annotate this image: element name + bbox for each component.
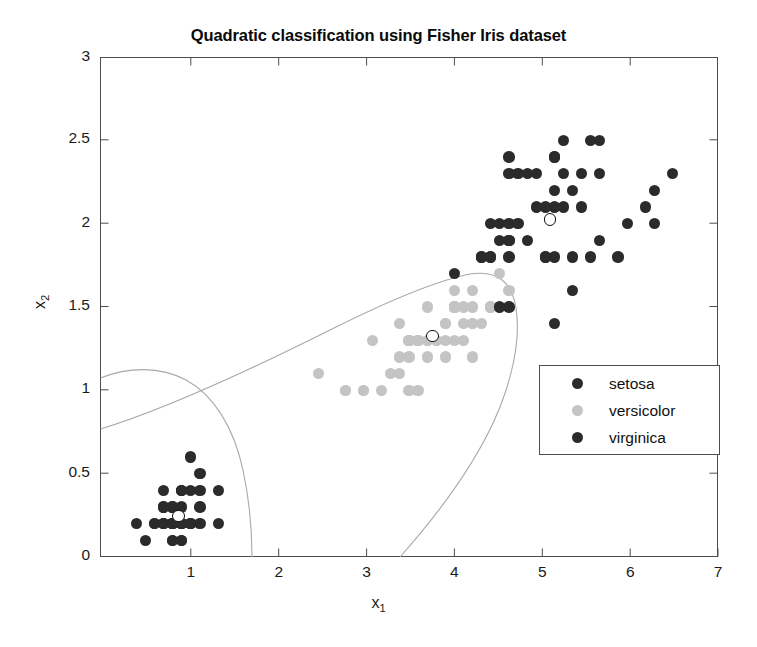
data-point xyxy=(640,201,651,212)
y-tick-label: 0.5 xyxy=(38,463,90,481)
data-point xyxy=(313,368,324,379)
data-point xyxy=(213,485,224,496)
legend-label: setosa xyxy=(609,374,655,394)
data-point xyxy=(422,301,433,312)
data-point xyxy=(476,318,487,329)
data-point xyxy=(558,168,569,179)
y-tick-label: 1 xyxy=(38,379,90,397)
data-point xyxy=(158,485,169,496)
y-tick-label: 2 xyxy=(38,213,90,231)
x-axis-label: x1 xyxy=(0,594,757,614)
data-point xyxy=(422,351,433,362)
class-centroid-marker xyxy=(544,213,556,225)
x-tick-label: 3 xyxy=(347,563,387,581)
data-point xyxy=(194,468,205,479)
data-point xyxy=(503,151,514,162)
data-point xyxy=(503,285,514,296)
legend-item-versicolor[interactable]: versicolor xyxy=(540,397,721,424)
data-point xyxy=(467,351,478,362)
data-point xyxy=(367,335,378,346)
data-point xyxy=(585,251,596,262)
data-point xyxy=(376,385,387,396)
x-tick-label: 5 xyxy=(522,563,562,581)
legend-marker-icon xyxy=(572,432,583,443)
data-point xyxy=(440,318,451,329)
data-point xyxy=(131,518,142,529)
figure-canvas: Quadratic classification using Fisher Ir… xyxy=(0,0,757,647)
data-point xyxy=(549,185,560,196)
data-point xyxy=(467,285,478,296)
data-point xyxy=(449,285,460,296)
data-point xyxy=(576,201,587,212)
data-point xyxy=(140,535,151,546)
data-point xyxy=(476,251,487,262)
data-point xyxy=(512,168,523,179)
data-point xyxy=(576,168,587,179)
data-point xyxy=(449,301,460,312)
data-point xyxy=(567,285,578,296)
data-point xyxy=(385,368,396,379)
x-tick-label: 7 xyxy=(698,563,738,581)
legend-label: virginica xyxy=(609,428,666,448)
data-point xyxy=(594,168,605,179)
class-centroid-marker xyxy=(426,330,438,342)
data-point xyxy=(194,485,205,496)
data-point xyxy=(403,351,414,362)
data-point xyxy=(531,201,542,212)
data-point xyxy=(394,318,405,329)
data-point xyxy=(649,185,660,196)
data-point xyxy=(340,385,351,396)
x-tick-label: 1 xyxy=(171,563,211,581)
legend-item-setosa[interactable]: setosa xyxy=(540,370,721,397)
data-point xyxy=(667,168,678,179)
y-axis-label: x2 xyxy=(31,287,51,317)
data-point xyxy=(458,335,469,346)
data-point xyxy=(440,351,451,362)
y-tick-label: 0 xyxy=(38,546,90,564)
data-point xyxy=(612,251,623,262)
data-point xyxy=(458,318,469,329)
data-point xyxy=(194,518,205,529)
y-axis-label-main: x xyxy=(31,301,48,309)
data-point xyxy=(540,251,551,262)
data-point xyxy=(594,235,605,246)
data-point xyxy=(412,385,423,396)
legend-marker-icon xyxy=(572,378,583,389)
data-point xyxy=(594,135,605,146)
data-point xyxy=(358,385,369,396)
data-point xyxy=(549,318,560,329)
data-point xyxy=(503,235,514,246)
data-point xyxy=(549,151,560,162)
data-point xyxy=(467,301,478,312)
data-point xyxy=(494,268,505,279)
data-point xyxy=(649,218,660,229)
data-point xyxy=(567,185,578,196)
y-axis-label-sub: 2 xyxy=(39,295,51,301)
data-point xyxy=(622,218,633,229)
data-point xyxy=(503,301,514,312)
data-point xyxy=(503,251,514,262)
data-point xyxy=(412,335,423,346)
x-tick-label: 6 xyxy=(610,563,650,581)
data-point-layer xyxy=(100,57,718,557)
data-point xyxy=(531,168,542,179)
legend-item-virginica[interactable]: virginica xyxy=(540,424,721,451)
data-point xyxy=(185,451,196,462)
y-tick-label: 3 xyxy=(38,47,90,65)
legend-marker-icon xyxy=(572,405,583,416)
legend-box: setosa versicolor virginica xyxy=(539,365,720,455)
data-point xyxy=(558,135,569,146)
x-axis-label-sub: 1 xyxy=(379,602,385,614)
class-centroid-marker xyxy=(172,510,184,522)
data-point xyxy=(449,268,460,279)
data-point xyxy=(485,218,496,229)
legend-label: versicolor xyxy=(609,401,675,421)
data-point xyxy=(522,235,533,246)
data-point xyxy=(567,251,578,262)
data-point xyxy=(194,501,205,512)
data-point xyxy=(213,518,224,529)
x-tick-label: 4 xyxy=(434,563,474,581)
y-tick-label: 2.5 xyxy=(38,129,90,147)
data-point xyxy=(512,218,523,229)
data-point xyxy=(549,201,560,212)
